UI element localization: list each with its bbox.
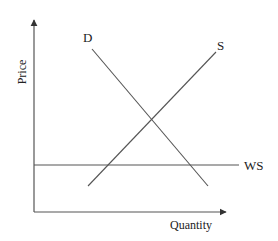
y-axis-label: Price [15, 60, 29, 85]
supply-demand-diagram: D S WS Quantity Price [0, 0, 278, 241]
world-supply-label: WS [244, 158, 264, 173]
supply-label: S [217, 38, 224, 53]
demand-label: D [83, 30, 92, 45]
supply-curve [88, 52, 216, 186]
x-axis-label: Quantity [170, 218, 212, 232]
